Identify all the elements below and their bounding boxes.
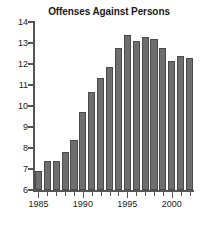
x-axis-tick — [92, 192, 93, 196]
y-axis-tick-label: 11 — [4, 80, 28, 90]
bar — [35, 171, 42, 190]
bar — [79, 112, 86, 190]
chart-title: Offenses Against Persons — [0, 6, 204, 17]
y-axis-tick-label: 9 — [4, 122, 28, 132]
bar — [70, 140, 77, 190]
x-axis-tick — [38, 192, 39, 198]
x-axis-tick — [101, 192, 102, 196]
x-axis-tick — [145, 192, 146, 196]
x-axis-tick — [154, 192, 155, 196]
bar — [177, 56, 184, 190]
x-axis-tick — [190, 192, 191, 196]
bar — [142, 37, 149, 190]
x-axis-tick — [181, 192, 182, 196]
bar — [159, 48, 166, 190]
bar — [124, 35, 131, 190]
bar — [168, 61, 175, 190]
bar — [88, 92, 95, 190]
y-axis-tick-label: 13 — [4, 38, 28, 48]
bar — [62, 152, 69, 190]
x-axis-tick — [172, 192, 173, 198]
bar — [133, 41, 140, 190]
x-axis-tick — [83, 192, 84, 198]
y-axis-tick — [28, 42, 33, 44]
y-axis-tick — [28, 21, 33, 23]
y-axis-tick — [28, 105, 33, 107]
x-axis-tick — [56, 192, 57, 196]
bar — [106, 67, 113, 190]
bar — [150, 39, 157, 190]
y-axis-tick — [28, 147, 33, 149]
bar — [97, 78, 104, 190]
y-axis-tick-label: 10 — [4, 101, 28, 111]
y-axis-tick-label: 6 — [4, 185, 28, 195]
x-axis-tick — [47, 192, 48, 196]
x-axis-tick-label: 2000 — [162, 199, 182, 209]
y-axis-tick-label: 8 — [4, 143, 28, 153]
y-axis-labels: 14131211109876 — [0, 0, 28, 228]
bar — [186, 58, 193, 190]
x-axis-tick — [74, 192, 75, 196]
x-axis-tick — [136, 192, 137, 196]
x-axis-tick — [65, 192, 66, 196]
x-axis-tick — [110, 192, 111, 196]
y-axis-tick — [28, 189, 33, 191]
y-axis-tick — [28, 63, 33, 65]
plot-area — [34, 22, 194, 190]
y-axis-tick — [28, 168, 33, 170]
x-axis-tick — [163, 192, 164, 196]
x-axis-tick-label: 1995 — [117, 199, 137, 209]
y-axis-tick — [28, 84, 33, 86]
y-axis-tick — [28, 126, 33, 128]
bar-chart: Offenses Against Persons 14131211109876 … — [0, 0, 204, 228]
x-axis-tick-label: 1985 — [28, 199, 48, 209]
y-axis-tick-label: 7 — [4, 164, 28, 174]
y-axis-tick-label: 12 — [4, 59, 28, 69]
bar — [44, 161, 51, 190]
x-axis-tick — [118, 192, 119, 196]
x-axis-tick — [127, 192, 128, 198]
bar — [115, 48, 122, 190]
bar — [53, 161, 60, 190]
x-axis-tick-label: 1990 — [73, 199, 93, 209]
y-axis-tick-label: 14 — [4, 17, 28, 27]
